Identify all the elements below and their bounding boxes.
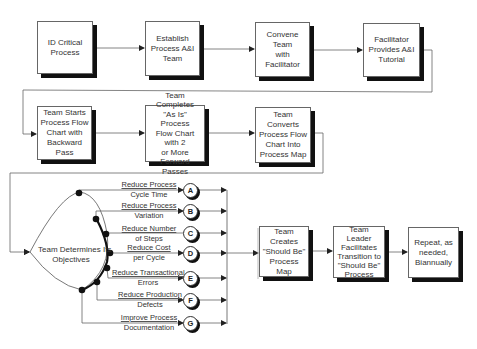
objective-circle-e: E [183, 271, 198, 286]
branch-line1: Reduce Number [116, 224, 182, 234]
box-text: Tutorial [369, 55, 415, 65]
branch-line2: Defects [116, 300, 184, 310]
box-text: Provides A&I [369, 45, 415, 55]
branch-label-g: Improve ProcessDocumentation [116, 313, 182, 332]
objective-circle-a: A [183, 183, 198, 198]
box-text: Repeat, as [414, 238, 453, 248]
objectives-title-line: Objectives [38, 255, 104, 265]
step-facilitator-tutorial: FacilitatorProvides A&ITutorial [363, 23, 420, 77]
branch-line1: Reduce Cost [116, 243, 182, 253]
box-text: "Should Be" [336, 261, 382, 270]
box-text: or More Forward [148, 148, 202, 167]
branch-line2: of Steps [116, 234, 182, 244]
box-text: Team Converts [258, 110, 308, 130]
box-text: ID Critical [48, 38, 83, 48]
step-should-be-map: Team Creates"Should Be"Process Map [259, 226, 309, 277]
box-text: Team Leader [336, 225, 382, 243]
box-text: needed, [414, 248, 453, 258]
branch-line2: Variation [116, 211, 182, 221]
box-text: Chart with [40, 128, 89, 138]
box-text: Facilitator [369, 35, 415, 45]
box-text: Process Flow [258, 130, 308, 140]
box-text: Process A&I [151, 44, 195, 54]
step-convert-map: Team ConvertsProcess FlowChart IntoProce… [255, 107, 311, 163]
box-text: Team [151, 54, 195, 64]
step-repeat: Repeat, asneeded,Biannually [408, 227, 459, 278]
box-text: Establish [151, 34, 195, 44]
branch-line1: Reduce Process [116, 201, 182, 211]
branch-label-d: Reduce Costper Cycle [116, 243, 182, 262]
branch-line1: Reduce Transactional [112, 268, 184, 278]
objective-circle-f: F [183, 293, 198, 308]
objectives-title: Team Determines Its Objectives [38, 245, 104, 265]
step-convene-team: Convene Teamwith Facilitator [255, 22, 310, 77]
box-text: Biannually [414, 258, 453, 268]
step-as-is-chart: Team Completes"As Is" ProcessFlow Chart … [145, 105, 205, 162]
step-establish-team: EstablishProcess A&ITeam [145, 21, 200, 76]
box-text: Passes [148, 167, 202, 177]
box-text: Chart Into [258, 140, 308, 150]
box-text: Flow Chart with 2 [148, 129, 202, 148]
box-text: Team Starts [40, 108, 89, 118]
step-backward-pass: Team StartsProcess FlowChart withBackwar… [37, 106, 92, 160]
step-leader-transition: Team LeaderFacilitatesTransition to"Shou… [333, 226, 385, 278]
objective-circle-d: D [183, 246, 198, 261]
box-text: Team Creates [262, 227, 306, 247]
branch-label-f: Reduce ProductionDefects [116, 290, 184, 309]
box-text: "As Is" Process [148, 110, 202, 129]
branch-label-c: Reduce Numberof Steps [116, 224, 182, 243]
objective-circle-b: B [183, 204, 198, 219]
box-text: Process [48, 48, 83, 58]
box-text: with Facilitator [258, 50, 307, 70]
box-text: Facilitates [336, 243, 382, 252]
box-text: Backward Pass [40, 138, 89, 158]
box-text: Convene Team [258, 30, 307, 50]
objective-circle-c: C [183, 226, 198, 241]
objective-circle-g: G [183, 316, 198, 331]
branch-line1: Reduce Production [116, 290, 184, 300]
branch-line2: Errors [112, 278, 184, 288]
box-text: Team Completes [148, 91, 202, 110]
branch-line2: per Cycle [116, 253, 182, 263]
branch-label-b: Reduce ProcessVariation [116, 201, 182, 220]
box-text: Transition to [336, 252, 382, 261]
box-text: Process Map [258, 150, 308, 160]
objectives-title-line: Team Determines Its [38, 245, 104, 255]
box-text: Process Map [262, 257, 306, 277]
branch-label-a: Reduce ProcessCycle Time [116, 180, 182, 199]
branch-line2: Cycle Time [116, 190, 182, 200]
box-text: Process Flow [40, 118, 89, 128]
step-id-critical-process: ID CriticalProcess [37, 21, 93, 74]
branch-label-e: Reduce TransactionalErrors [112, 268, 184, 287]
box-text: "Should Be" [262, 247, 306, 257]
branch-line1: Improve Process [116, 313, 182, 323]
branch-line1: Reduce Process [116, 180, 182, 190]
branch-line2: Documentation [116, 323, 182, 333]
box-text: Process [336, 270, 382, 279]
